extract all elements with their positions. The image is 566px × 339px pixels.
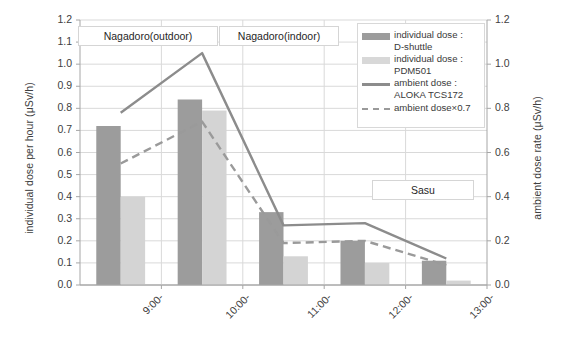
- legend-item: ambient dose×0.7: [362, 102, 481, 116]
- annotation-box: Nagadoro(outdoor): [78, 26, 218, 46]
- y-axis-left-tick-label: 0.4: [42, 190, 72, 202]
- legend-label: individual dose : D-shuttle: [394, 29, 463, 52]
- y-axis-left-tick-label: 1.0: [42, 57, 72, 69]
- legend-swatch-d-shuttle-icon: [362, 30, 390, 43]
- y-axis-left-tick-label: 0.8: [42, 101, 72, 113]
- y-axis-right-title: ambient dose rate (μSv/h): [531, 58, 543, 258]
- y-axis-left-title: individual dose per hour (μSv/h): [23, 58, 35, 258]
- annotation-box: Sasu: [372, 180, 474, 200]
- y-axis-left-tick-label: 0.6: [42, 146, 72, 158]
- y-axis-left-tick-label: 0.2: [42, 234, 72, 246]
- legend-label: ambient dose : ALOKA TCS172: [394, 77, 463, 100]
- legend-line-aloka-icon: [362, 78, 390, 91]
- legend: individual dose : D-shuttle individual d…: [357, 23, 485, 128]
- y-axis-right-tick-label: 0.0: [495, 278, 525, 290]
- y-axis-left-tick-label: 1.1: [42, 35, 72, 47]
- y-axis-right-tick-label: 1.2: [495, 13, 525, 25]
- y-axis-right-tick-label: 0.4: [495, 190, 525, 202]
- y-axis-left-tick-label: 0.0: [42, 278, 72, 290]
- y-axis-left-tick-label: 0.5: [42, 168, 72, 180]
- chart-container: individual dose per hour (μSv/h) ambient…: [0, 0, 566, 339]
- annotation-box: Nagadoro(indoor): [219, 26, 339, 46]
- y-axis-left-tick-label: 1.2: [42, 13, 72, 25]
- y-axis-right-tick-label: 1.0: [495, 57, 525, 69]
- legend-label: individual dose : PDM501: [394, 53, 463, 76]
- legend-label: ambient dose×0.7: [394, 102, 471, 114]
- y-axis-left-tick-label: 0.7: [42, 123, 72, 135]
- y-axis-left-tick-label: 0.9: [42, 79, 72, 91]
- legend-line-ambient-x07-icon: [362, 103, 390, 116]
- y-axis-left-tick-label: 0.1: [42, 256, 72, 268]
- legend-item: individual dose : PDM501: [362, 53, 481, 76]
- y-axis-right-tick-label: 0.8: [495, 101, 525, 113]
- y-axis-left-tick-label: 0.3: [42, 212, 72, 224]
- legend-swatch-pdm501-icon: [362, 54, 390, 67]
- legend-item: ambient dose : ALOKA TCS172: [362, 77, 481, 100]
- y-axis-right-tick-label: 0.2: [495, 234, 525, 246]
- legend-item: individual dose : D-shuttle: [362, 29, 481, 52]
- y-axis-right-tick-label: 0.6: [495, 146, 525, 158]
